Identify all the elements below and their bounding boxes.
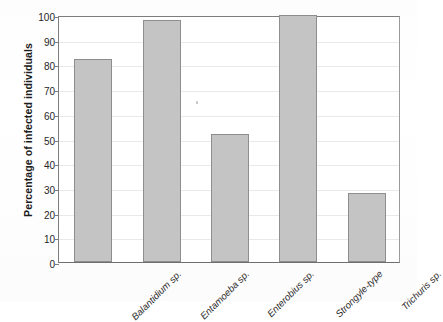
bar [211,134,249,262]
y-axis-tick-label: 10 [21,234,55,245]
bar [143,20,181,262]
y-axis-tick-label: 80 [21,61,55,72]
bar [348,193,386,262]
y-axis-tick-label: 70 [21,86,55,97]
y-axis-tick-label: 20 [21,209,55,220]
y-axis-tick-label: 100 [21,12,55,23]
y-axis-tick-label: 50 [21,135,55,146]
y-axis-tick-label: 0 [21,259,55,270]
x-axis-tick-label: Strongyle-type [334,268,386,320]
y-axis-tick-label: 90 [21,36,55,47]
bar [279,15,317,262]
y-axis-tick-label: 60 [21,110,55,121]
scan-artifact [196,101,198,104]
x-axis-tick-label: Entamoeba sp. [197,268,250,321]
x-axis-tick-label: Enterobius sp. [265,268,316,319]
y-axis-tick-label: 40 [21,160,55,171]
x-axis-tick-label: Balantidium sp. [129,268,183,322]
bar-group [59,17,399,262]
y-axis-tick-label: 30 [21,184,55,195]
y-axis-tick-mark [55,264,59,265]
plot-area: 0102030405060708090100 [58,16,400,263]
bar [74,59,112,262]
x-axis-tick-label: Trichuris sp. [399,268,443,312]
